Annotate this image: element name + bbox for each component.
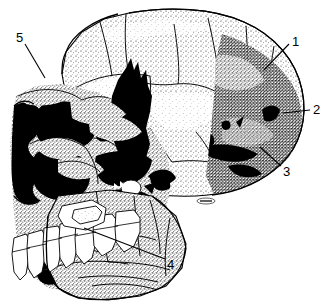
skull-illustration-figure: 1 2 3 4 5 [0,0,331,308]
callout-label-4: 4 [167,258,174,271]
leader-line-5 [25,44,45,78]
artist-mark [197,198,215,204]
callout-label-1: 1 [292,35,299,48]
callout-label-5: 5 [16,31,23,44]
callout-label-2: 2 [313,103,320,116]
skull-drawing [0,0,331,308]
callout-label-3: 3 [283,165,290,178]
